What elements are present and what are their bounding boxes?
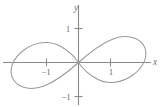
- y-tick-label-1: 1: [66, 24, 71, 34]
- x-tick-label-minus-1: −1: [41, 67, 51, 77]
- plot-canvas: x y −1 1 1 −1: [0, 0, 164, 107]
- lemniscate-figure: x y −1 1 1 −1: [0, 0, 164, 107]
- x-axis-label: x: [152, 57, 158, 67]
- x-tick-label-1: 1: [109, 67, 114, 77]
- y-axis-label: y: [73, 3, 79, 13]
- y-tick-label-minus-1: −1: [61, 92, 71, 102]
